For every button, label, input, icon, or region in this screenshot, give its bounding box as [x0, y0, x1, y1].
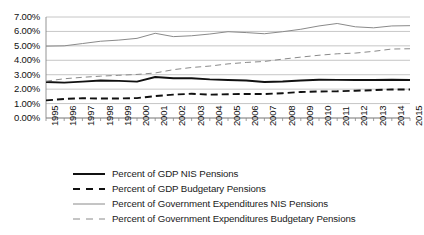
x-tick-label: 2005 — [232, 106, 242, 126]
x-tick-label: 2014 — [396, 106, 406, 126]
x-tick-label: 2000 — [141, 106, 151, 126]
x-tick-label: 2003 — [196, 106, 206, 126]
x-tick-label: 2008 — [287, 106, 297, 126]
x-tick-label: 1999 — [123, 106, 133, 126]
y-tick-label: 7.00% — [0, 12, 40, 22]
legend-item[interactable]: Percent of Government Expenditures NIS P… — [72, 196, 416, 211]
legend-item[interactable]: Percent of GDP NIS Pensions — [72, 166, 416, 181]
series-line-0 — [46, 77, 410, 83]
x-tick-label: 1996 — [68, 106, 78, 126]
plot-area — [0, 0, 416, 136]
legend-label: Percent of GDP NIS Pensions — [112, 168, 238, 179]
chart-legend: Percent of GDP NIS PensionsPercent of GD… — [72, 166, 416, 226]
legend-line-swatch-icon — [72, 168, 106, 180]
x-tick-label: 1995 — [50, 106, 60, 126]
series-line-3 — [46, 49, 410, 81]
legend-label: Percent of Government Expenditures NIS P… — [112, 198, 328, 209]
y-tick-label: 1.00% — [0, 99, 40, 109]
x-tick-label: 2006 — [250, 106, 260, 126]
legend-label: Percent of GDP Budgetary Pensions — [112, 183, 266, 194]
y-tick-label: 3.00% — [0, 70, 40, 80]
y-tick-label: 6.00% — [0, 26, 40, 36]
x-tick-label: 1998 — [105, 106, 115, 126]
x-tick-label: 2009 — [305, 106, 315, 126]
legend-item[interactable]: Percent of Government Expenditures Budge… — [72, 211, 416, 226]
legend-line-swatch-icon — [72, 183, 106, 195]
plot-svg — [0, 0, 416, 136]
x-tick-label: 2012 — [359, 106, 369, 126]
x-tick-label: 2015 — [414, 106, 424, 126]
x-tick-label: 2010 — [323, 106, 333, 126]
legend-line-swatch-icon — [72, 213, 106, 225]
y-tick-label: 2.00% — [0, 84, 40, 94]
y-tick-label: 0.00% — [0, 113, 40, 123]
y-axis: 7.00%6.00%5.00%4.00%3.00%2.00%1.00%0.00% — [0, 0, 43, 136]
x-tick-label: 1997 — [86, 106, 96, 126]
series-line-1 — [46, 89, 410, 100]
x-tick-label: 2002 — [177, 106, 187, 126]
y-tick-label: 4.00% — [0, 55, 40, 65]
legend-item[interactable]: Percent of GDP Budgetary Pensions — [72, 181, 416, 196]
legend-line-swatch-icon — [72, 198, 106, 210]
x-tick-label: 2011 — [341, 106, 351, 126]
legend-label: Percent of Government Expenditures Budge… — [112, 213, 356, 224]
series-line-2 — [46, 23, 410, 46]
y-tick-label: 5.00% — [0, 41, 40, 51]
x-tick-label: 2004 — [214, 106, 224, 126]
x-tick-label: 2013 — [378, 106, 388, 126]
x-tick-label: 2001 — [159, 106, 169, 126]
x-tick-label: 2007 — [268, 106, 278, 126]
x-axis: 1995199619971998199920002001200220032004… — [0, 123, 416, 168]
